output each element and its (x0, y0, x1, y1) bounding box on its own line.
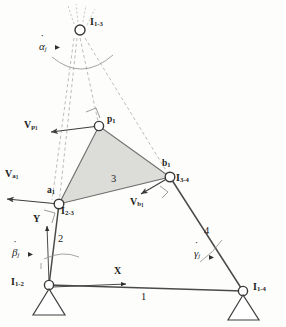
velocity-vector-a1 (7, 199, 59, 204)
label-point-b1: b1 (162, 159, 171, 169)
label-instant-center-I23: I2-3 (61, 206, 74, 217)
joint-p1 (94, 121, 103, 130)
label-instant-center-I12: I1-2 (11, 277, 24, 288)
label-x-axis: X (114, 266, 121, 276)
label-link-1: 1 (141, 292, 146, 303)
label-velocity-p1: Vp1 (24, 120, 38, 132)
label-y-axis: Y (33, 214, 40, 224)
label-velocity-b1: Vb1 (130, 197, 144, 209)
kinematics-diagram: I1-3 I2-3 I3-4 I1-2 I1-4 p1 a1 b1 Vp1 Va… (0, 0, 286, 327)
ground-support-left (33, 289, 65, 315)
joint-b1-I34 (165, 172, 175, 182)
label-angular-velocity-alpha: αj (39, 41, 47, 53)
label-angular-velocity-beta: βj (12, 247, 19, 259)
gamma-dot-arrowhead (209, 255, 214, 260)
label-angular-velocity-gamma: γj (194, 248, 200, 260)
ground-support-right (228, 295, 259, 320)
y-axis-arrow (47, 226, 49, 282)
label-instant-center-I13: I1-3 (90, 17, 103, 28)
label-link-4: 4 (204, 226, 209, 237)
beta-dot-arrowhead (28, 252, 33, 257)
label-velocity-a1: Va1 (5, 169, 18, 181)
label-point-p1: p1 (107, 115, 116, 125)
velocity-vector-p1 (51, 126, 99, 132)
label-instant-center-I34: I3-4 (176, 173, 189, 184)
label-link-2: 2 (58, 234, 63, 245)
label-point-a1: a1 (47, 186, 55, 196)
label-link-3: 3 (111, 174, 116, 185)
alpha-dot-arc (52, 55, 113, 69)
label-instant-center-I14: I1-4 (253, 282, 266, 293)
alpha-dot-arrowhead (55, 45, 60, 50)
joint-I13 (75, 25, 85, 35)
beta-dot-arc (44, 254, 79, 259)
